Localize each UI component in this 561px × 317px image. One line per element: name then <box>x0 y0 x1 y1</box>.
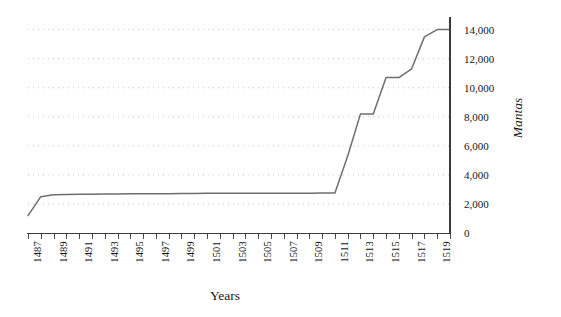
plot-area <box>28 18 450 233</box>
y-axis-tick-label: 4,000 <box>464 169 489 181</box>
x-axis-tick-label: 1487 <box>32 241 43 263</box>
y-axis-tick-label: 2,000 <box>464 198 489 210</box>
x-axis-tick <box>130 234 131 239</box>
x-axis-tick <box>399 234 400 239</box>
x-axis-tick <box>335 234 336 239</box>
x-axis-tick <box>54 234 55 239</box>
y-axis-tick-label: 6,000 <box>464 140 489 152</box>
x-axis-tick <box>258 234 259 239</box>
x-axis-tick <box>66 234 67 239</box>
x-axis-tick <box>207 234 208 239</box>
x-axis-tick <box>28 234 29 239</box>
x-axis-tick <box>105 234 106 239</box>
x-axis-tick <box>271 234 272 239</box>
x-axis-tick-label: 1513 <box>364 241 375 263</box>
x-axis-tick <box>373 234 374 239</box>
x-axis-tick <box>245 234 246 239</box>
x-axis-tick <box>181 234 182 239</box>
x-axis-tick <box>386 234 387 239</box>
x-axis-tick <box>309 234 310 239</box>
y-axis-tick-label: 10,000 <box>464 82 494 94</box>
y-axis-title: Mantas <box>510 98 526 139</box>
x-axis-tick-label: 1497 <box>160 241 171 263</box>
y-axis-tick-label: 12,000 <box>464 53 494 65</box>
x-axis-tick <box>169 234 170 239</box>
x-axis-tick <box>437 234 438 239</box>
x-axis-tick <box>412 234 413 239</box>
y-axis-tick-label: 14,000 <box>464 24 494 36</box>
x-axis-tick-label: 1489 <box>58 241 69 263</box>
x-axis-tick <box>92 234 93 239</box>
x-axis-tick-label: 1503 <box>237 241 248 263</box>
y-axis-tick-label: 8,000 <box>464 111 489 123</box>
x-axis-tick <box>143 234 144 239</box>
x-axis-tick <box>233 234 234 239</box>
x-axis-line <box>27 233 451 235</box>
x-axis-tick <box>284 234 285 239</box>
x-axis-tick <box>322 234 323 239</box>
x-axis-tick-label: 1507 <box>288 241 299 263</box>
x-axis-tick-label: 1493 <box>109 241 120 263</box>
x-axis-tick <box>118 234 119 239</box>
y-axis-tick-label: 0 <box>464 227 470 239</box>
x-axis-tick-label: 1517 <box>416 241 427 263</box>
x-axis-tick-label: 1505 <box>262 241 273 263</box>
x-axis-tick <box>220 234 221 239</box>
x-axis-tick-label: 1495 <box>134 241 145 263</box>
x-axis-tick-label: 1511 <box>339 241 350 262</box>
x-axis-tick <box>79 234 80 239</box>
x-axis-tick-label: 1491 <box>83 241 94 263</box>
x-axis-tick <box>297 234 298 239</box>
x-axis-tick <box>156 234 157 239</box>
x-axis-tick <box>348 234 349 239</box>
data-series-mantas <box>28 18 450 233</box>
x-axis-title: Years <box>0 288 450 304</box>
x-axis-tick-label: 1499 <box>185 241 196 263</box>
line-chart: 1487148914911493149514971499150115031505… <box>0 0 561 317</box>
x-axis-tick-label: 1501 <box>211 241 222 263</box>
y-axis-line <box>449 17 451 234</box>
x-axis-tick <box>360 234 361 239</box>
x-axis-tick-label: 1519 <box>441 241 452 263</box>
x-axis-tick <box>450 234 451 239</box>
x-axis-tick <box>424 234 425 239</box>
x-axis-tick-label: 1515 <box>390 241 401 263</box>
x-axis-tick-label: 1509 <box>313 241 324 263</box>
x-axis-tick <box>41 234 42 239</box>
x-axis-tick <box>194 234 195 239</box>
